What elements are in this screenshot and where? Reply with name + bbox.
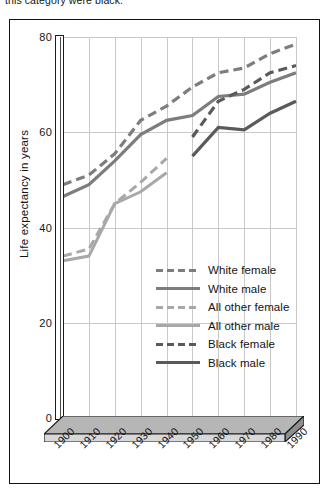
legend-label: All other male: [208, 320, 280, 332]
x-tick-label-1910: 1910: [77, 425, 103, 451]
legend-swatch-solid: [155, 357, 201, 368]
x-axis-ticks: 1900191019201930194019501960197019801990: [0, 0, 329, 490]
x-tick-label-1970: 1970: [232, 425, 258, 451]
legend-swatch-solid: [155, 283, 201, 294]
legend-label: Black female: [208, 338, 275, 350]
x-tick-label-1940: 1940: [155, 425, 181, 451]
x-tick-label-1990: 1990: [284, 425, 310, 451]
chart-page: this category were black. 020406080 Life…: [0, 0, 329, 490]
legend-label: All other female: [208, 301, 290, 313]
legend-item-white-female[interactable]: White female: [155, 261, 305, 280]
legend-item-black-male[interactable]: Black male: [155, 354, 305, 373]
chart-legend: White femaleWhite maleAll other femaleAl…: [155, 261, 305, 372]
legend-item-black-female[interactable]: Black female: [155, 335, 305, 354]
legend-swatch-dashed: [155, 302, 201, 313]
x-tick-label-1960: 1960: [206, 425, 232, 451]
legend-item-all-other-female[interactable]: All other female: [155, 298, 305, 317]
x-tick-label-1930: 1930: [129, 425, 155, 451]
legend-label: White female: [208, 264, 276, 276]
legend-item-white-male[interactable]: White male: [155, 280, 305, 299]
legend-label: White male: [208, 283, 267, 295]
legend-swatch-solid: [155, 320, 201, 331]
x-tick-label-1980: 1980: [258, 425, 284, 451]
x-tick-label-1950: 1950: [180, 425, 206, 451]
legend-swatch-dashed: [155, 265, 201, 276]
legend-label: Black male: [208, 357, 265, 369]
legend-item-all-other-male[interactable]: All other male: [155, 317, 305, 336]
legend-swatch-dashed: [155, 339, 201, 350]
x-tick-label-1900: 1900: [51, 425, 77, 451]
x-tick-label-1920: 1920: [103, 425, 129, 451]
